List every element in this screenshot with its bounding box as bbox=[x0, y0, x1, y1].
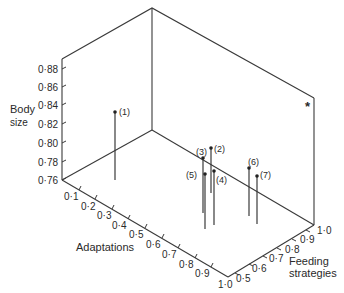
z-tick: 0·76 bbox=[38, 175, 58, 186]
3d-stem-chart: 0·76 0·78 0·80 0·82 0·84 0·86 0·88 Body … bbox=[0, 0, 344, 293]
asterisk-marker: * bbox=[305, 99, 311, 114]
point-label: (7) bbox=[260, 170, 271, 180]
point-label: (5) bbox=[186, 170, 197, 180]
z-tick: 0·82 bbox=[38, 119, 58, 130]
x-tick: 0·8 bbox=[179, 259, 194, 270]
z-axis-label: size bbox=[10, 117, 28, 128]
y-axis-label: Feeding bbox=[289, 255, 329, 267]
z-axis-label: Body bbox=[10, 103, 36, 115]
point-label: (4) bbox=[216, 175, 227, 185]
x-axis-label: Adaptations bbox=[76, 241, 135, 253]
x-tick: 0·7 bbox=[162, 249, 177, 260]
z-axis: 0·76 0·78 0·80 0·82 0·84 0·86 0·88 Body … bbox=[10, 64, 66, 186]
y-tick: 0·8 bbox=[285, 244, 300, 255]
point-label: (3) bbox=[196, 147, 207, 157]
point-label: (2) bbox=[214, 144, 225, 154]
y-tick: 0·6 bbox=[252, 263, 267, 274]
x-tick: 0·9 bbox=[195, 268, 210, 279]
data-points: (1) (2) (3) (4) (5) (6) (7) bbox=[113, 107, 271, 229]
point-label: (1) bbox=[119, 107, 130, 117]
point-label: (6) bbox=[248, 157, 259, 167]
y-axis-label: strategies bbox=[289, 267, 337, 279]
z-tick: 0·80 bbox=[38, 138, 58, 149]
x-tick: 0·2 bbox=[81, 201, 96, 212]
box-frame bbox=[62, 8, 314, 277]
y-tick: 1·0 bbox=[317, 225, 332, 236]
x-tick: 0·6 bbox=[146, 239, 161, 250]
x-tick: 0·1 bbox=[64, 191, 79, 202]
y-tick: 0·7 bbox=[269, 253, 284, 264]
y-axis: 0·5 0·6 0·7 0·8 0·9 1·0 Feeding strategi… bbox=[235, 225, 337, 284]
z-tick: 0·86 bbox=[38, 82, 58, 93]
x-tick: 0·4 bbox=[112, 220, 127, 231]
z-tick: 0·84 bbox=[38, 100, 58, 111]
x-tick: 0·5 bbox=[129, 229, 144, 240]
x-tick: 1·0 bbox=[218, 279, 233, 290]
x-axis: 0·1 0·2 0·3 0·4 0·5 0·6 0·7 0·8 0·9 1·0 … bbox=[64, 186, 233, 290]
z-tick: 0·78 bbox=[38, 157, 58, 168]
y-tick: 0·9 bbox=[300, 234, 315, 245]
y-tick: 0·5 bbox=[236, 273, 251, 284]
x-tick: 0·3 bbox=[97, 210, 112, 221]
z-tick: 0·88 bbox=[38, 64, 58, 75]
